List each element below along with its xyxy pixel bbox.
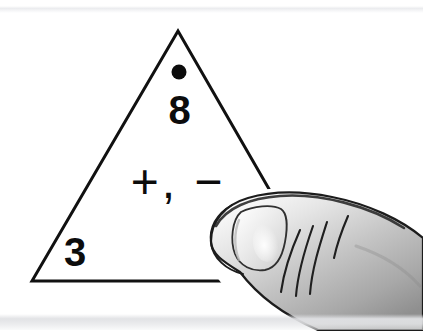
flashcard-scene: 8 +, − 3 (0, 0, 423, 332)
corner-marker-dot (172, 65, 187, 80)
operators-label: +, − (0, 158, 356, 206)
top-number-label: 8 (0, 90, 358, 130)
bottom-left-number-label: 3 (64, 232, 85, 272)
thumb-illustration (211, 193, 423, 330)
